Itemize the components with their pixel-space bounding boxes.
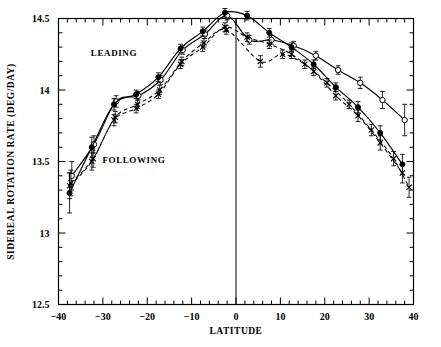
x-axis-title: LATITUDE [210,326,263,336]
data-point-filled-circle [356,105,361,110]
data-point-filled-circle [311,62,316,67]
data-point-filled-circle [156,75,161,80]
y-tick-label: 14.5 [32,13,50,24]
x-tick-label: 20 [320,311,330,322]
data-point-open-circle [358,80,363,85]
x-tick-label: 40 [409,311,419,322]
y-tick-label: 13 [40,228,50,239]
rotation-rate-chart: −40−30−20−1001020304012.51313.51414.5LAT… [0,0,441,347]
data-point-filled-circle [245,13,250,18]
x-tick-label: 0 [234,311,239,322]
x-tick-label: 10 [275,311,285,322]
data-point-filled-circle [289,45,294,50]
data-point-filled-circle [200,29,205,34]
data-point-open-circle [402,117,407,122]
data-point-open-circle [380,97,385,102]
data-point-filled-circle [222,10,227,15]
data-point-filled-circle [111,102,116,107]
data-point-filled-circle [378,130,383,135]
y-tick-label: 14 [40,85,50,96]
data-point-filled-circle [267,30,272,35]
x-tick-label: −40 [51,311,67,322]
y-axis-title: SIDEREAL ROTATION RATE (DEG/DAY) [6,63,17,259]
x-tick-label: −30 [95,311,111,322]
data-point-open-circle [335,67,340,72]
data-point-filled-circle [178,46,183,51]
figure: −40−30−20−1001020304012.51313.51414.5LAT… [0,0,441,347]
data-point-filled-circle [134,92,139,97]
data-point-filled-circle [89,145,94,150]
annotation-following: FOLLOWING [102,155,165,165]
annotation-leading: LEADING [91,48,137,58]
data-point-open-circle [313,53,318,58]
x-tick-label: 30 [364,311,374,322]
x-tick-label: −10 [184,311,200,322]
y-tick-label: 13.5 [32,156,50,167]
x-tick-label: −20 [139,311,155,322]
y-tick-label: 12.5 [32,299,50,310]
